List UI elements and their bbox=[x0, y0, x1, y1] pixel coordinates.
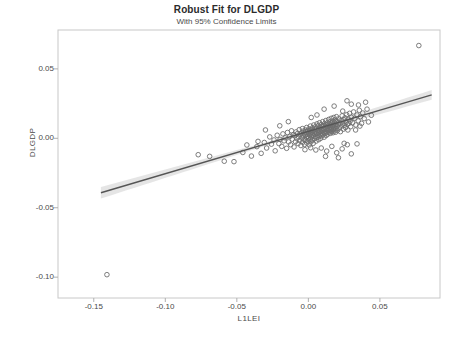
x-axis-label: L1LEI bbox=[58, 314, 440, 323]
y-tick-label-text: 0.05 bbox=[20, 64, 54, 73]
y-tick-label-text: 0.00 bbox=[20, 133, 54, 142]
y-tick-label: 0.05 bbox=[14, 64, 54, 74]
x-tick-label: -0.15 bbox=[72, 302, 116, 311]
x-tick-label: 0.00 bbox=[286, 302, 330, 311]
y-tick-label: 0.00 bbox=[14, 133, 54, 143]
y-tick-label: -0.05 bbox=[14, 203, 54, 213]
robust-fit-chart: Robust Fit for DLGDP With 95% Confidence… bbox=[0, 0, 453, 339]
x-tick-label: 0.05 bbox=[358, 302, 402, 311]
plot-frame bbox=[58, 30, 440, 298]
y-tick-label: -0.10 bbox=[14, 272, 54, 282]
x-tick-label: -0.05 bbox=[215, 302, 259, 311]
plot-area bbox=[0, 0, 453, 339]
x-tick-label: -0.10 bbox=[143, 302, 187, 311]
y-tick-label-text: -0.10 bbox=[20, 272, 54, 281]
y-tick-label-text: -0.05 bbox=[20, 203, 54, 212]
